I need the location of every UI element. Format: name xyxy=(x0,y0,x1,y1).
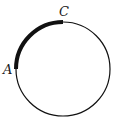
point-label-a: A xyxy=(2,62,12,77)
circle-diagram: A C xyxy=(0,0,132,139)
highlighted-arc-a-to-c xyxy=(16,22,63,69)
point-label-c: C xyxy=(59,4,69,19)
